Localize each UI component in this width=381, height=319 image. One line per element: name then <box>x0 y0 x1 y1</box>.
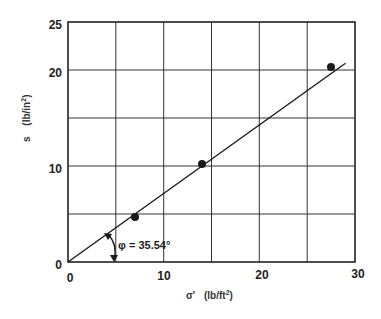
x-axis-units: (lb/ft <box>204 290 226 301</box>
x-tick-label: 10 <box>157 269 171 283</box>
data-point <box>198 160 206 168</box>
x-axis-symbol: σ' <box>186 290 195 301</box>
x-tick-label: 20 <box>255 268 269 282</box>
failure-envelope-line <box>68 63 346 262</box>
y-tick-label: 20 <box>49 66 63 80</box>
data-point <box>131 213 139 221</box>
y-tick-label: 10 <box>49 162 63 176</box>
x-axis-label: σ' (lb/ft2) <box>186 289 233 301</box>
arrowhead-icon <box>110 255 118 262</box>
x-tick-label: 0 <box>67 271 74 285</box>
svg-text:s (lb/in2): s (lb/in2) <box>20 95 32 142</box>
phi-annotation: φ = 35.54° <box>118 239 170 251</box>
y-tick-label: 25 <box>49 18 63 32</box>
y-axis-units: (lb/in <box>21 102 32 126</box>
data-point <box>327 63 335 71</box>
grid <box>68 22 355 262</box>
y-axis-symbol: s <box>21 136 32 142</box>
y-tick-label: 0 <box>55 258 62 272</box>
chart-canvas: φ = 35.54° 25 20 10 0 0 10 20 30 s (lb/i… <box>0 0 381 319</box>
x-tick-label: 30 <box>351 267 365 281</box>
y-axis-label: s (lb/in2) <box>20 95 32 142</box>
